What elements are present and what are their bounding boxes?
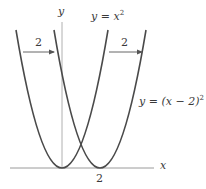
curve-label-x-squared-lhs: y = [91,10,113,23]
curve-label-x-minus-2-squared: y = (x − 2)2 [139,96,204,107]
curve-label-x-squared: y = x2 [91,11,124,22]
shift-arrow-left-label: 2 [35,37,42,48]
parabola-shift-diagram: y x 2 2 2 y = x2 y = (x − 2)2 [0,0,206,189]
curve-y-equals-x-minus-2-squared [54,30,146,168]
curve-label-shifted-exp: 2 [199,94,203,102]
y-axis-label: y [58,6,64,17]
x-axis-label: x [160,160,166,171]
shift-arrow-right-label: 2 [121,37,128,48]
curve-label-shifted-lhs: y = [139,95,161,108]
curve-label-shifted-body: (x − 2) [161,95,199,108]
x-tick-label-2: 2 [96,173,103,184]
curve-label-x-squared-exp: 2 [120,9,124,17]
